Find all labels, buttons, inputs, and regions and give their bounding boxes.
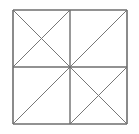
geometric-figure: [0, 0, 139, 134]
figure-canvas: [0, 0, 139, 134]
